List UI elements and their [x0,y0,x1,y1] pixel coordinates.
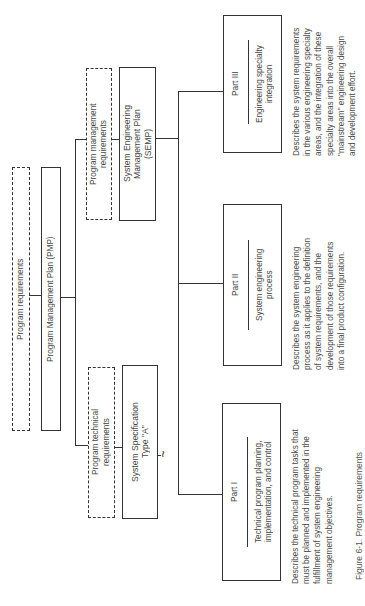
part2-description: Describes the system engineering process… [291,205,349,370]
figure-caption: Figure 6-1. Program requirements [354,260,364,580]
part2-subtitle: System engineering process [252,204,278,366]
program-technical-requirements-label: Program technical requirements [88,367,115,518]
program-requirements-label: Program requirements [12,167,30,431]
part2-title: Part II [228,204,242,366]
tilde-symbol: ~ [156,450,170,457]
part2-divider [248,240,249,330]
pmp-spine [75,139,76,446]
part3-title: Part III [228,15,242,153]
program-management-requirements-label: Program management requirements [86,68,112,220]
pmp-label: Program Management Plan (PMP) [41,167,61,431]
parts-trunk [178,91,179,495]
connector-trunk-part2 [178,283,224,284]
connector-semp-trunk [155,138,179,139]
part1-title: Part I [227,403,241,581]
part3-divider [248,40,249,124]
semp-label: System Engineering Management Plan (SEMP… [119,67,156,221]
system-specification-label: System Specification Type "A" [122,365,158,519]
part1-description: Describes the technical program tasks th… [290,402,338,584]
part3-description: Describes the system requirements in the… [291,6,359,156]
part1-subtitle: Technical program planning, implementati… [251,403,277,581]
connector-trunk-part3 [178,91,224,92]
connector-trunk-part1 [178,494,223,495]
part1-divider [247,437,248,547]
part3-subtitle: Engineering specialty integration [252,15,278,153]
connector-spine-ptr [75,445,89,446]
connector-pmp-spine [60,297,76,298]
